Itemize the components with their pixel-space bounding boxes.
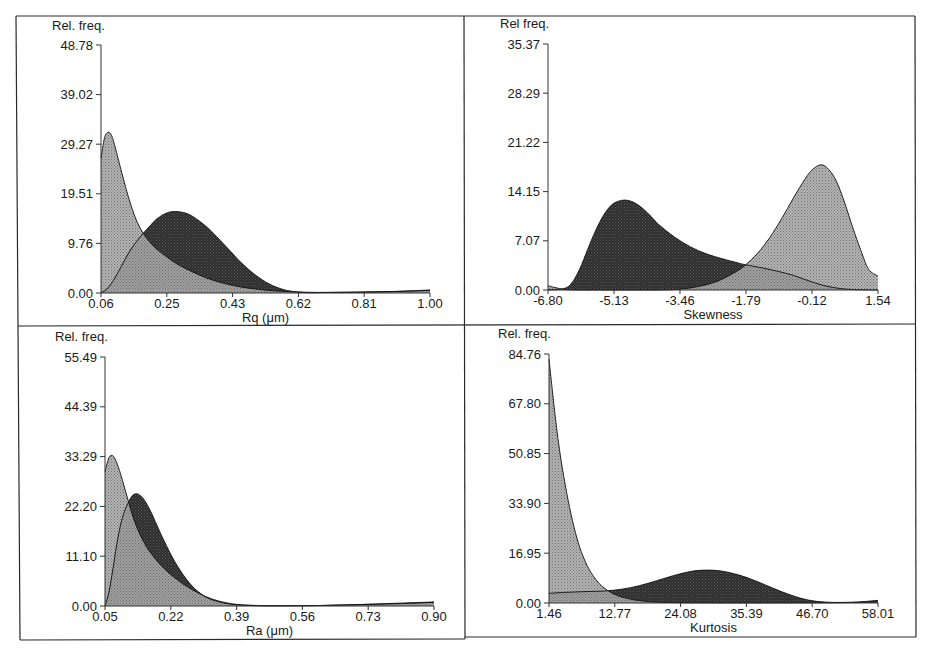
series-layer bbox=[548, 165, 878, 290]
x-axis-title: Skewness bbox=[683, 307, 743, 322]
x-tick-label: 0.90 bbox=[421, 609, 446, 624]
x-tick-label: -1.79 bbox=[731, 293, 761, 308]
x-axis-title: Ra (μm) bbox=[246, 623, 293, 638]
x-tick-label: 1.00 bbox=[417, 296, 442, 311]
x-tick-label: 0.06 bbox=[88, 296, 113, 311]
y-tick-label: 21.22 bbox=[507, 135, 540, 150]
y-tick-label: 28.29 bbox=[507, 86, 540, 101]
y-tick-label: 48.78 bbox=[60, 38, 93, 53]
x-tick-label: -6.80 bbox=[533, 293, 563, 308]
series-layer bbox=[105, 455, 434, 606]
y-tick-label: 29.27 bbox=[60, 137, 93, 152]
y-tick-label: 33.29 bbox=[64, 449, 97, 464]
x-tick-label: 0.39 bbox=[224, 609, 249, 624]
series-layer bbox=[549, 359, 878, 603]
panel-kurtosis-distribution: 0.0016.9533.9050.8567.8084.761.4612.7724… bbox=[498, 326, 894, 635]
y-tick-label: 19.51 bbox=[60, 186, 93, 201]
series-layer bbox=[101, 132, 430, 293]
y-tick-label: 16.95 bbox=[508, 546, 541, 561]
y-axis-title: Rel. freq. bbox=[52, 18, 105, 33]
x-tick-label: 1.54 bbox=[865, 293, 890, 308]
panel-skewness-distribution: 0.007.0714.1521.2228.2935.37-6.80-5.13-3… bbox=[500, 16, 891, 322]
x-tick-label: 0.05 bbox=[92, 609, 117, 624]
y-tick-label: 67.80 bbox=[508, 396, 541, 411]
y-tick-label: 33.90 bbox=[508, 496, 541, 511]
y-axis-title: Rel. freq. bbox=[498, 326, 551, 341]
y-tick-label: 7.07 bbox=[515, 233, 540, 248]
y-tick-label: 55.49 bbox=[64, 350, 97, 365]
y-tick-label: 9.76 bbox=[68, 236, 93, 251]
figure: 0.009.7619.5129.2739.0248.780.060.250.43… bbox=[0, 0, 927, 652]
panel-ra-distribution: 0.0011.1022.2033.2944.3955.490.050.220.3… bbox=[55, 329, 447, 638]
x-tick-label: 58.01 bbox=[862, 606, 895, 621]
x-tick-label: 24.08 bbox=[664, 606, 697, 621]
y-tick-label: 22.20 bbox=[64, 499, 97, 514]
panel-rq-distribution: 0.009.7619.5129.2739.0248.780.060.250.43… bbox=[52, 18, 443, 325]
x-tick-label: 0.22 bbox=[158, 609, 183, 624]
y-tick-label: 35.37 bbox=[507, 37, 540, 52]
figure-canvas: 0.009.7619.5129.2739.0248.780.060.250.43… bbox=[0, 0, 927, 652]
y-tick-label: 44.39 bbox=[64, 399, 97, 414]
x-tick-label: 0.81 bbox=[352, 296, 377, 311]
x-tick-label: 46.70 bbox=[796, 606, 829, 621]
y-tick-label: 50.85 bbox=[508, 446, 541, 461]
x-tick-label: 1.46 bbox=[536, 606, 561, 621]
x-tick-label: 0.56 bbox=[290, 609, 315, 624]
x-tick-label: 0.62 bbox=[286, 296, 311, 311]
x-axis-title: Kurtosis bbox=[690, 620, 737, 635]
x-tick-label: 0.73 bbox=[356, 609, 381, 624]
x-tick-label: 0.43 bbox=[220, 296, 245, 311]
y-axis-title: Rel freq. bbox=[500, 16, 549, 31]
x-axis-title: Rq (μm) bbox=[242, 310, 289, 325]
x-tick-label: 35.39 bbox=[730, 606, 763, 621]
overlap-area bbox=[101, 212, 430, 293]
x-tick-label: -3.46 bbox=[665, 293, 695, 308]
y-tick-label: 11.10 bbox=[65, 549, 97, 564]
x-tick-label: -0.12 bbox=[797, 293, 827, 308]
x-tick-label: -5.13 bbox=[599, 293, 629, 308]
x-tick-label: 12.77 bbox=[599, 606, 632, 621]
y-tick-label: 84.76 bbox=[508, 347, 541, 362]
y-tick-label: 14.15 bbox=[507, 184, 540, 199]
x-tick-label: 0.25 bbox=[154, 296, 179, 311]
light-distribution-curve bbox=[549, 359, 878, 603]
y-axis-title: Rel. freq. bbox=[55, 329, 108, 344]
y-tick-label: 39.02 bbox=[60, 87, 93, 102]
light-distribution-area bbox=[549, 359, 878, 603]
